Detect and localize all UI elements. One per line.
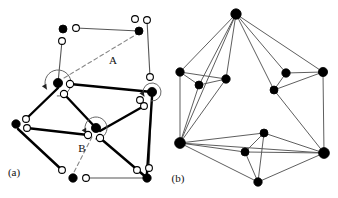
node-b-left-outer <box>176 68 184 76</box>
open-a-01 <box>73 25 80 32</box>
open-a-04 <box>144 17 151 24</box>
rotation-arrow-center-upper-head <box>42 84 47 90</box>
edge-b-4-6 <box>286 72 323 73</box>
edge-b-7-8 <box>180 133 264 143</box>
panel-a-open-nodes <box>23 16 154 182</box>
node-b-bottom-inner-a <box>260 129 268 137</box>
panel-b-nodes <box>175 9 330 186</box>
edge-a-center-to-centerlower <box>64 94 96 128</box>
open-a-02 <box>59 38 66 45</box>
edge-a-topright-down <box>147 20 150 77</box>
node-a-center-lower <box>91 123 100 132</box>
panel-a-black-nodes <box>12 25 157 182</box>
open-a-12 <box>84 131 91 138</box>
panel-label-a: (a) <box>8 166 21 179</box>
edge-a-topleft-down <box>58 41 62 83</box>
edge-a-top <box>76 28 139 31</box>
node-b-top <box>231 9 241 19</box>
panel-b: (b) <box>172 9 330 186</box>
edge-a-center-to-left <box>26 88 58 119</box>
edge-b-0-6 <box>236 14 323 72</box>
edge-b-3-7 <box>180 79 226 143</box>
open-a-14 <box>59 167 66 174</box>
node-a-right-mid <box>147 87 156 96</box>
node-a-left <box>12 120 20 128</box>
figure-container: AB(a) (b) <box>0 0 338 198</box>
panel-b-edges <box>180 14 324 182</box>
edge-b-6-11 <box>323 72 324 153</box>
edge-b-5-11 <box>274 90 324 153</box>
node-a-top-left <box>59 25 67 33</box>
edge-b-9-10 <box>245 152 258 182</box>
node-b-right-inner-a <box>282 69 290 77</box>
edge-b-2-7 <box>180 85 199 143</box>
figure-svg: AB(a) (b) <box>0 0 338 198</box>
node-b-right-inner-b <box>270 86 278 94</box>
open-a-08 <box>137 97 144 104</box>
edge-a-center-to-right <box>70 84 152 92</box>
node-b-right-outer <box>318 67 327 76</box>
open-a-07 <box>60 90 67 97</box>
edge-b-5-6 <box>274 72 323 90</box>
open-a-17 <box>146 165 153 172</box>
edge-b-8-10 <box>258 133 264 182</box>
open-a-09 <box>141 103 148 110</box>
node-b-bottom-inner-b <box>241 148 249 156</box>
panel-label-b: (b) <box>172 172 185 185</box>
label-A: A <box>109 54 117 66</box>
edge-a-left-to-centerlower <box>27 128 88 135</box>
node-a-bottom-left <box>69 174 77 182</box>
open-a-10 <box>23 116 30 123</box>
node-b-left-inner-b <box>222 75 230 83</box>
edge-b-10-11 <box>258 153 324 182</box>
panel-a: AB(a) <box>8 16 161 183</box>
panel-b-labels: (b) <box>172 172 185 185</box>
open-a-06 <box>66 80 73 87</box>
edge-b-8-11 <box>264 133 324 153</box>
dashed-edge-A <box>64 34 137 78</box>
node-a-center-upper <box>53 78 62 87</box>
node-b-left-inner-a <box>195 81 203 89</box>
node-b-bottom-mid <box>254 178 262 186</box>
node-b-bottom-right <box>319 148 330 159</box>
open-a-16 <box>134 167 141 174</box>
open-a-13 <box>96 134 103 141</box>
label-B: B <box>78 142 85 154</box>
open-a-11 <box>24 125 31 132</box>
edge-a-left-to-bottomleft <box>18 129 62 170</box>
node-b-bottom-left <box>175 138 186 149</box>
open-a-15 <box>83 175 90 182</box>
open-a-03 <box>132 16 139 23</box>
node-a-bottom-right <box>143 174 151 182</box>
edge-b-0-1 <box>180 14 236 72</box>
node-a-top-right <box>135 27 143 35</box>
open-a-05 <box>147 74 154 81</box>
